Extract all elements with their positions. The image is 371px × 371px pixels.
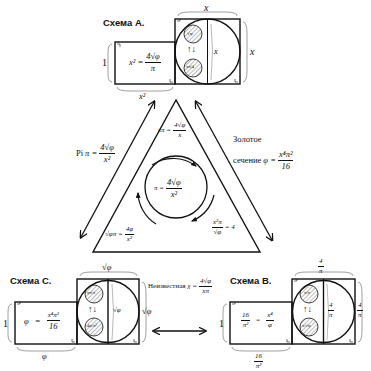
scheme-a-rect-formula: x² = 4√φπ: [129, 52, 161, 72]
scheme-a-small-circle-bottom-label: xπ/4: [186, 65, 194, 70]
scheme-c-small-circle-bottom-label: 4φ/x²: [87, 324, 97, 329]
center-pi-formula: π = 4√φx²: [154, 178, 182, 198]
scheme-c-square-top-label: √φ: [102, 263, 111, 272]
scheme-c-square-side-label: √φ: [142, 307, 151, 316]
scheme-b-square-side-label: 4π: [357, 302, 363, 319]
scheme-c-swap-arrows: ↑↓: [88, 305, 97, 314]
scheme-c-title: Схема С.: [10, 276, 51, 286]
golden-ratio-title: Золотое: [233, 135, 262, 144]
scheme-b-rect-width-label: 16π²: [254, 353, 263, 370]
scheme-a-inner-diameter-label: x: [214, 47, 218, 56]
scheme-a-rect-height-label: 1: [102, 58, 107, 68]
inner-top-formula: xπ = 4√φx: [158, 122, 186, 139]
scheme-a-swap-arrows: ↑↓: [187, 45, 196, 54]
scheme-a-small-circle-top-label: √φ: [187, 31, 193, 36]
inner-right-formula: x²π√φ = 4: [212, 219, 235, 236]
scheme-a-title: Схема А.: [103, 18, 144, 28]
scheme-b-small-circle-bottom-label: x/√φ: [302, 324, 311, 329]
scheme-b-rect-formula: 16π² = x⁴φ: [241, 312, 274, 329]
scheme-b-square-top-label: 4π: [318, 258, 324, 275]
pi-formula-label: Pi π = 4√φx²: [76, 143, 115, 163]
scheme-b-rect-height-label: 1: [219, 319, 224, 329]
scheme-c-rect-formula: φ = x⁴π²16: [24, 312, 60, 331]
scheme-a-square-top-label: x: [204, 3, 208, 13]
scheme-b-swap-arrows: ↑↓: [303, 305, 312, 314]
scheme-b-inner-diameter-label: 4π: [328, 302, 334, 319]
scheme-c-rect-width-label: φ: [42, 352, 47, 361]
scheme-c-rect-height-label: 1: [3, 319, 8, 329]
scheme-a-square-side-label: x: [250, 47, 254, 57]
scheme-a-rect-width-label: x²: [139, 92, 145, 101]
inner-left-formula: √φπ = 4φx²: [105, 226, 134, 243]
scheme-b-title: Схема В.: [230, 276, 271, 286]
scheme-c-small-circle-top-label: φπ/x: [87, 291, 95, 296]
golden-ratio-formula-label: сечение φ = x⁴π²16: [233, 150, 293, 170]
cycle-arrow-right: [192, 195, 214, 221]
left-double-arrow: [81, 102, 154, 237]
scheme-b-small-circle-top-label: x/π: [304, 291, 310, 296]
unknown-chi-formula-label: Неизвестная χ = 4√φxπ: [148, 278, 212, 295]
scheme-c-inner-diameter-label: √φ: [113, 307, 121, 314]
